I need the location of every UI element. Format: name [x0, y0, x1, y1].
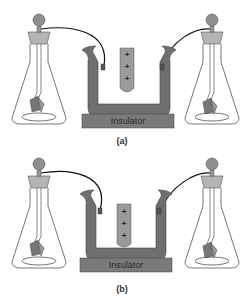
electroscope-diagram-b: + + + Insulator	[0, 150, 244, 300]
electroscope-diagram-a: + + + Insulator	[0, 0, 244, 150]
left-flask	[12, 14, 66, 124]
charge-plus: +	[125, 50, 130, 59]
panel-a: + + + Insulator (a)	[0, 0, 244, 150]
insulator-label: Insulator	[111, 116, 146, 126]
charge-plus: +	[122, 231, 127, 240]
right-flask	[185, 14, 239, 124]
left-flask	[12, 158, 66, 268]
charge-plus: +	[125, 62, 130, 71]
charge-plus: +	[125, 74, 130, 83]
charge-plus: +	[122, 219, 127, 228]
caption-a: (a)	[0, 136, 244, 146]
insulator-label: Insulator	[109, 260, 144, 270]
caption-b: (b)	[0, 284, 244, 294]
charge-plus: +	[122, 207, 127, 216]
right-flask	[185, 158, 239, 268]
panel-b: + + + Insulator (b)	[0, 150, 244, 300]
